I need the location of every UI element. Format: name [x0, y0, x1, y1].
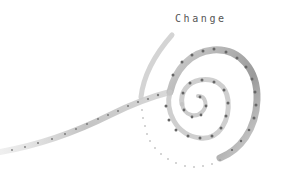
spiral-tail-stroke: [0, 92, 170, 152]
spiral-inner-curl: [182, 96, 205, 115]
spiral-middle-ring: [169, 80, 229, 139]
illustration-canvas: Change: [0, 0, 283, 185]
upper-brush-stroke: [141, 35, 172, 97]
spiral-illustration: [0, 0, 283, 185]
